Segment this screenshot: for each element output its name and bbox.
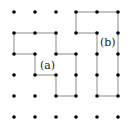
lattice-dot (74, 73, 78, 77)
lattice-dot (74, 115, 78, 119)
lattice-dot (116, 94, 120, 98)
lattice-dot (33, 52, 37, 56)
lattice-dot (12, 115, 16, 119)
lattice-dot (95, 52, 99, 56)
lattice-dot (33, 31, 37, 35)
lattice-dot (54, 10, 58, 14)
lattice-dot (95, 94, 99, 98)
lattice-dot (116, 115, 120, 119)
lattice-dot (12, 94, 16, 98)
lattice-diagram: (a) (b) (0, 0, 128, 124)
lattice-dot (95, 10, 99, 14)
lattice-dot (33, 115, 37, 119)
lattice-dot (33, 10, 37, 14)
lattice-dot (74, 31, 78, 35)
lattice-dot (54, 115, 58, 119)
lattice-dot (54, 94, 58, 98)
polygon-b-label: (b) (99, 37, 117, 48)
lattice-dot (33, 73, 37, 77)
lattice-dot (54, 31, 58, 35)
lattice-points (12, 10, 120, 119)
lattice-canvas (0, 0, 128, 124)
lattice-dot (116, 31, 120, 35)
lattice-dot (116, 10, 120, 14)
lattice-dot (74, 94, 78, 98)
lattice-dot (12, 73, 16, 77)
lattice-dot (54, 52, 58, 56)
lattice-dot (12, 52, 16, 56)
lattice-dot (54, 73, 58, 77)
lattice-dot (95, 115, 99, 119)
polygon-edges (14, 12, 118, 96)
lattice-dot (74, 52, 78, 56)
lattice-dot (12, 31, 16, 35)
polygon-a-label: (a) (39, 60, 56, 71)
lattice-dot (74, 10, 78, 14)
lattice-dot (33, 94, 37, 98)
lattice-dot (116, 73, 120, 77)
lattice-dot (12, 10, 16, 14)
lattice-dot (95, 31, 99, 35)
lattice-dot (95, 73, 99, 77)
lattice-dot (116, 52, 120, 56)
